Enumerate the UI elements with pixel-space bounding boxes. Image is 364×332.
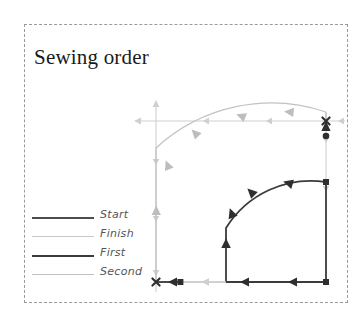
legend-swatch-second	[32, 274, 94, 275]
marker-finish-circle	[323, 133, 330, 140]
legend-swatch-start	[32, 217, 94, 219]
legend-item-start: Start	[32, 208, 152, 227]
legend-item-second: Second	[32, 265, 152, 284]
marker-first-square-right	[323, 179, 329, 185]
legend-label-first: First	[100, 246, 125, 259]
legend: Start Finish First Second	[32, 208, 152, 284]
legend-item-first: First	[32, 246, 152, 265]
path-second	[152, 103, 326, 282]
figure-root: Sewing order	[0, 0, 364, 332]
marker-start-square-left	[177, 279, 183, 285]
marker-first-square-bottom	[323, 279, 329, 285]
legend-item-finish: Finish	[32, 227, 152, 246]
legend-label-second: Second	[100, 265, 142, 278]
legend-swatch-first	[32, 255, 94, 257]
legend-swatch-finish	[32, 236, 94, 237]
legend-label-start: Start	[100, 208, 128, 221]
path-first	[221, 177, 326, 282]
legend-label-finish: Finish	[100, 227, 134, 240]
axis-horizontal-top	[134, 118, 345, 125]
